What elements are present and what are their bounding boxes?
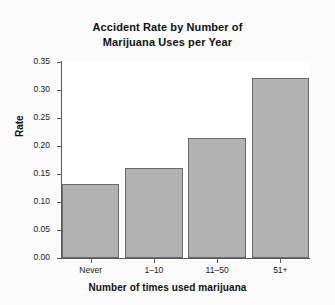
bar-11-50: [188, 138, 245, 258]
bar-slot: [62, 62, 119, 258]
bar-slot: [125, 62, 182, 258]
y-axis-tick-label: 0.30: [33, 84, 50, 94]
chart-title-line-2: Marijuana Uses per Year: [0, 35, 335, 50]
x-axis-tick-label: 1–10: [125, 265, 182, 275]
bar-never: [62, 184, 119, 258]
y-axis-tick-label: 0.00: [33, 252, 50, 262]
x-axis-tick-label: Never: [62, 265, 119, 275]
x-axis-tick-label: 11–50: [188, 265, 245, 275]
x-axis-tick: 1–10: [125, 259, 182, 279]
bar-slot: [252, 62, 309, 258]
x-axis-tick-mark: [217, 259, 218, 263]
x-axis-tick: 11–50: [188, 259, 245, 279]
y-axis-tick-label: 0.15: [33, 168, 50, 178]
bar-51-plus: [252, 78, 309, 258]
y-axis-tick-label: 0.05: [33, 224, 50, 234]
x-axis-ticks: Never 1–10 11–50 51+: [62, 259, 309, 279]
x-axis-tick-label: 51+: [252, 265, 309, 275]
chart-title: Accident Rate by Number of Marijuana Use…: [0, 20, 335, 50]
chart-title-line-1: Accident Rate by Number of: [0, 20, 335, 35]
x-axis-tick-mark: [280, 259, 281, 263]
y-axis-tick-label: 0.10: [33, 196, 50, 206]
bar-series: [62, 62, 309, 258]
y-axis-tick-label: 0.35: [33, 56, 50, 66]
x-axis-title: Number of times used marijuana: [0, 282, 335, 293]
x-axis-tick-mark: [154, 259, 155, 263]
chart-figure: Accident Rate by Number of Marijuana Use…: [0, 0, 335, 305]
x-axis-tick: Never: [62, 259, 119, 279]
bar-1-10: [125, 168, 182, 258]
y-axis-tick-label: 0.25: [33, 112, 50, 122]
y-axis-title: Rate: [14, 115, 25, 137]
y-axis-tick-label: 0.20: [33, 140, 50, 150]
bar-slot: [188, 62, 245, 258]
x-axis-tick: 51+: [252, 259, 309, 279]
x-axis-tick-mark: [91, 259, 92, 263]
